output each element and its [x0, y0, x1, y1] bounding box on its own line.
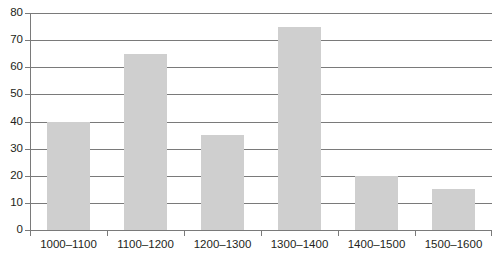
plot-area — [30, 13, 492, 230]
y-axis-label-text: 60 — [1, 61, 23, 73]
y-axis-label-0: 0 — [0, 224, 23, 236]
x-tick-5 — [415, 231, 416, 236]
y-axis-label-text: 50 — [1, 88, 23, 100]
x-tick-3 — [261, 231, 262, 236]
y-axis-label-20: 20 — [0, 170, 23, 182]
y-axis-label-text: 80 — [1, 7, 23, 19]
bar-1500-1600 — [432, 189, 475, 230]
y-tick-40 — [25, 122, 30, 123]
bar-1000-1100 — [47, 122, 90, 231]
y-axis-label-text: 40 — [1, 116, 23, 128]
y-tick-70 — [25, 40, 30, 41]
y-axis-label-80: 80 — [0, 7, 23, 19]
y-tick-80 — [25, 13, 30, 14]
y-tick-30 — [25, 149, 30, 150]
x-tick-end — [491, 231, 492, 236]
x-axis-label-1400-1500: 1400–1500 — [338, 238, 415, 251]
gridline-20 — [30, 176, 492, 177]
gridline-80 — [30, 13, 492, 14]
x-axis-label-1200-1300: 1200–1300 — [184, 238, 261, 251]
y-axis-label-50: 50 — [0, 88, 23, 100]
y-axis-label-30: 30 — [0, 143, 23, 155]
y-axis-label-text: 30 — [1, 143, 23, 155]
bar-chart: 80 70 60 50 40 30 20 10 0 1000–1100 1100… — [0, 0, 499, 259]
x-tick-start — [30, 231, 31, 236]
x-tick-4 — [338, 231, 339, 236]
bar-1300-1400 — [278, 27, 321, 230]
y-axis-label-40: 40 — [0, 116, 23, 128]
x-tick-1 — [107, 231, 108, 236]
y-tick-10 — [25, 203, 30, 204]
x-axis-label-1300-1400: 1300–1400 — [261, 238, 338, 251]
gridline-60 — [30, 67, 492, 68]
bar-1400-1500 — [355, 176, 398, 230]
y-axis-label-text: 20 — [1, 170, 23, 182]
y-axis-label-10: 10 — [0, 197, 23, 209]
y-tick-20 — [25, 176, 30, 177]
y-axis-label-60: 60 — [0, 61, 23, 73]
x-axis-label-1100-1200: 1100–1200 — [107, 238, 184, 251]
y-axis-label-text: 10 — [1, 197, 23, 209]
x-axis-label-1500-1600: 1500–1600 — [415, 238, 492, 251]
y-tick-50 — [25, 94, 30, 95]
gridline-40 — [30, 122, 492, 123]
y-axis-label-text: 0 — [1, 224, 23, 236]
y-tick-60 — [25, 67, 30, 68]
y-axis-label-text: 70 — [1, 34, 23, 46]
gridline-10 — [30, 203, 492, 204]
y-axis-label-70: 70 — [0, 34, 23, 46]
bar-1200-1300 — [201, 135, 244, 230]
bar-1100-1200 — [124, 54, 167, 230]
gridline-30 — [30, 149, 492, 150]
gridline-50 — [30, 94, 492, 95]
x-tick-2 — [184, 231, 185, 236]
gridline-70 — [30, 40, 492, 41]
x-axis-label-1000-1100: 1000–1100 — [30, 238, 107, 251]
